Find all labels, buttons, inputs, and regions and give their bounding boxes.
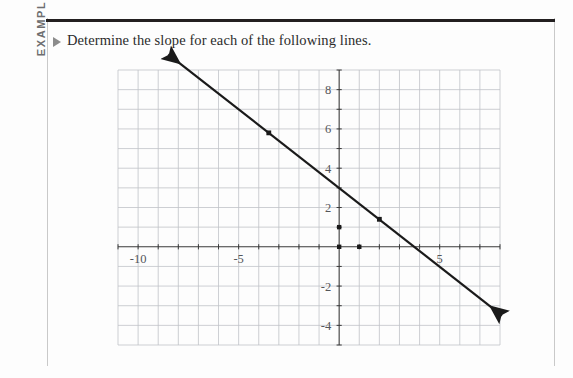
line-point-marker [377,217,382,222]
y-tick-label: 6 [325,122,331,136]
origin-marker-dot [337,225,341,229]
y-tick-label: 4 [325,162,332,176]
coordinate-graph: -10-558642-2-4 [0,0,573,378]
y-tick-label: 8 [325,83,331,97]
y-tick-label: 2 [325,201,331,215]
graph-svg: -10-558642-2-4 [0,0,573,378]
origin-marker-dot [337,245,341,249]
y-tick-label: -4 [321,319,332,333]
x-tick-label: -10 [130,252,147,266]
axis-tick-labels: -10-558642-2-4 [130,83,443,333]
line-point-marker [266,130,271,135]
y-tick-label: -2 [321,280,331,294]
worksheet-page: EXAMPLE Determine the slope for each of … [0,0,573,378]
grid-minor-lines [118,70,500,345]
x-tick-label: -5 [233,252,243,266]
origin-marker-dot [357,245,361,249]
